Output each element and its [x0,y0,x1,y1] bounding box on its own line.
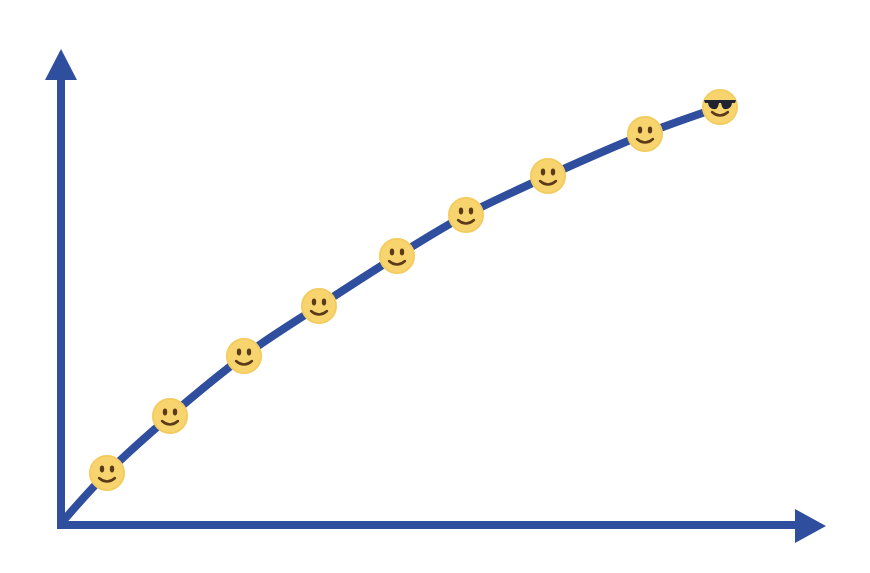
chart-canvas [0,0,870,573]
smiley-face-icon [448,197,484,233]
data-curve [62,107,720,522]
axes [45,49,826,543]
smiley-face-icon [89,455,125,491]
smiley-face-icon [627,116,663,152]
smiley-face-icon [152,398,188,434]
chart-container [0,0,870,573]
smiley-face-icon [226,338,262,374]
data-markers [89,89,738,491]
smiley-face-icon [530,158,566,194]
smiley-sunglasses-icon [702,89,738,125]
y-axis-arrow-icon [45,49,77,80]
x-axis-arrow-icon [795,509,826,543]
smiley-face-icon [379,238,415,274]
smiley-face-icon [301,288,337,324]
